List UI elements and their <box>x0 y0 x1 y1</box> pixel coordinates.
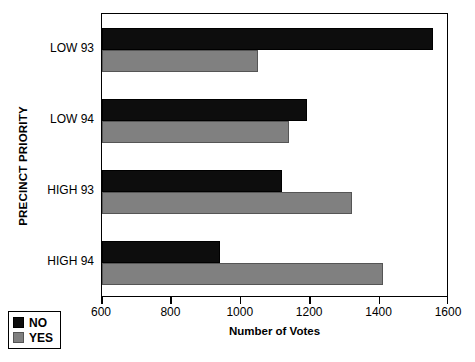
x-tick-1000 <box>240 297 242 304</box>
bar-low-93-yes <box>102 50 258 72</box>
bar-high-93-yes <box>102 192 352 214</box>
x-axis-ticks <box>101 297 448 305</box>
bar-high-94-no <box>102 241 220 263</box>
bar-chart: PRECINCT PRIORITY LOW 93LOW 94HIGH 93HIG… <box>0 0 475 362</box>
legend-label-yes: YES <box>29 332 53 344</box>
x-tick-600 <box>101 297 103 304</box>
category-label-low-93: LOW 93 <box>20 41 94 55</box>
category-label-high-93: HIGH 93 <box>20 183 94 197</box>
x-tick-label-600: 600 <box>71 305 131 319</box>
legend-swatch-no-icon <box>13 317 24 328</box>
x-tick-label-1000: 1000 <box>210 305 270 319</box>
x-axis-title: Number of Votes <box>101 325 448 337</box>
legend-item-yes: YES <box>13 330 53 345</box>
x-tick-1600 <box>447 297 449 304</box>
category-label-low-94: LOW 94 <box>20 112 94 126</box>
x-tick-label-800: 800 <box>140 305 200 319</box>
bar-high-94-yes <box>102 263 383 285</box>
bar-low-94-no <box>102 99 307 121</box>
x-tick-1200 <box>309 297 311 304</box>
plot-area <box>101 13 448 297</box>
x-tick-label-1400: 1400 <box>349 305 409 319</box>
legend-item-no: NO <box>13 315 53 330</box>
x-tick-label-1600: 1600 <box>418 305 475 319</box>
x-tick-800 <box>170 297 172 304</box>
x-tick-1400 <box>379 297 381 304</box>
legend-swatch-yes-icon <box>13 332 24 343</box>
x-tick-label-1200: 1200 <box>279 305 339 319</box>
bar-low-93-no <box>102 28 433 50</box>
category-label-high-94: HIGH 94 <box>20 254 94 268</box>
legend-label-no: NO <box>29 317 47 329</box>
chart-legend: NOYES <box>8 311 61 349</box>
y-axis-title: PRECINCT PRIORITY <box>17 66 29 266</box>
bar-high-93-no <box>102 170 282 192</box>
bar-low-94-yes <box>102 121 289 143</box>
